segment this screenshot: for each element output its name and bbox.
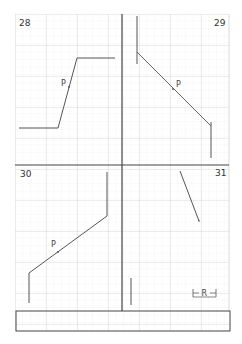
point-label: P xyxy=(176,80,181,89)
point-p-marker xyxy=(57,251,59,253)
panel-number: 31 xyxy=(215,168,226,178)
panel-number: 30 xyxy=(20,169,32,179)
point-p-marker xyxy=(172,88,174,90)
worksheet-drawing: 28 P 29 P 30 P 31 R xyxy=(0,0,242,344)
endpoint-marker xyxy=(198,220,200,222)
point-p-marker xyxy=(68,86,70,88)
panel-number: 29 xyxy=(214,18,226,28)
dimension-label: R xyxy=(202,289,208,298)
panel-number: 28 xyxy=(19,18,31,28)
point-label: P xyxy=(61,79,66,88)
point-label: P xyxy=(51,240,56,249)
